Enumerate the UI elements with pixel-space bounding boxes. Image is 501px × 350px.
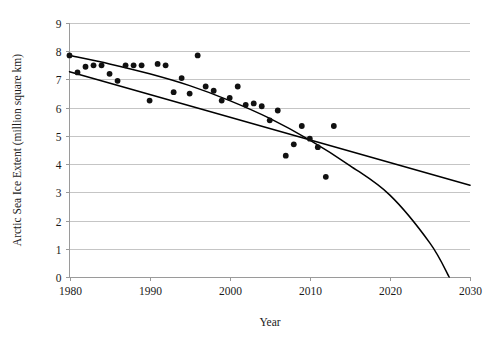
data-point bbox=[163, 62, 169, 68]
x-tick-label-2000: 2000 bbox=[219, 285, 242, 297]
data-point bbox=[67, 53, 73, 59]
data-point bbox=[131, 62, 137, 68]
data-point bbox=[331, 123, 337, 129]
y-tick-label-4: 4 bbox=[56, 159, 62, 171]
y-tick-label-3: 3 bbox=[56, 187, 62, 199]
x-axis-title: Year bbox=[259, 316, 280, 328]
data-point bbox=[139, 62, 145, 68]
data-point bbox=[275, 108, 281, 114]
data-point bbox=[115, 78, 121, 84]
y-tick-label-7: 7 bbox=[56, 74, 62, 86]
data-point bbox=[91, 62, 97, 68]
data-point bbox=[291, 141, 297, 147]
y-tick-label-5: 5 bbox=[56, 131, 62, 143]
data-point bbox=[283, 153, 289, 159]
y-tick-label-8: 8 bbox=[56, 46, 62, 58]
data-point bbox=[123, 62, 129, 68]
data-point bbox=[307, 136, 313, 142]
data-point bbox=[323, 174, 329, 180]
data-point bbox=[251, 101, 257, 107]
data-point bbox=[187, 91, 193, 97]
data-point bbox=[219, 98, 225, 104]
y-tick-label-6: 6 bbox=[56, 103, 62, 115]
data-point bbox=[203, 84, 209, 90]
x-tick-label-2030: 2030 bbox=[459, 285, 482, 297]
data-point bbox=[259, 103, 265, 109]
data-point bbox=[107, 71, 113, 77]
y-tick-label-1: 1 bbox=[56, 244, 62, 256]
chart-background bbox=[0, 0, 501, 350]
chart-container: 0123456789 198019902000201020202030 Year… bbox=[0, 0, 501, 350]
data-point bbox=[195, 53, 201, 59]
data-point bbox=[315, 144, 321, 150]
data-point bbox=[211, 88, 217, 94]
data-point bbox=[171, 89, 177, 95]
x-tick-label-1990: 1990 bbox=[139, 285, 162, 297]
x-tick-label-1980: 1980 bbox=[59, 285, 82, 297]
data-point bbox=[83, 64, 89, 70]
data-point bbox=[179, 75, 185, 81]
data-point bbox=[227, 95, 233, 101]
data-point bbox=[99, 62, 105, 68]
data-point bbox=[235, 84, 241, 90]
x-tick-label-2010: 2010 bbox=[299, 285, 322, 297]
arctic-sea-ice-extent-chart: 0123456789 198019902000201020202030 Year… bbox=[0, 0, 501, 350]
data-point bbox=[155, 61, 161, 67]
y-axis-title: Arctic Sea Ice Extent (million square km… bbox=[11, 54, 24, 246]
y-tick-label-2: 2 bbox=[56, 216, 62, 228]
data-point bbox=[299, 123, 305, 129]
data-point bbox=[243, 102, 249, 108]
data-point bbox=[147, 98, 153, 104]
y-tick-label-0: 0 bbox=[56, 272, 62, 284]
x-tick-label-2020: 2020 bbox=[379, 285, 402, 297]
data-point bbox=[267, 117, 273, 123]
y-tick-label-9: 9 bbox=[56, 18, 62, 30]
data-point bbox=[75, 69, 81, 75]
